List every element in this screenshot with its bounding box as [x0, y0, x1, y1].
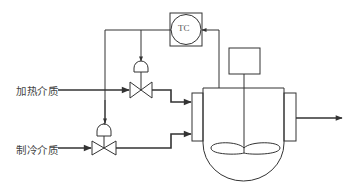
- heating-valve-actuator-icon: [134, 61, 148, 72]
- cooling-control-valve: [92, 124, 116, 155]
- cooling-pipe: [58, 134, 191, 148]
- agitator-motor: [229, 48, 260, 74]
- heating-control-valve: [130, 61, 152, 98]
- agitator-impeller: [211, 143, 280, 154]
- reactor-vessel: [192, 48, 296, 181]
- heating-medium-label: 加热介质: [16, 83, 58, 98]
- controller-label: TC: [178, 23, 190, 33]
- cooling-medium-label: 制冷介质: [16, 142, 58, 157]
- cooling-valve-actuator-icon: [97, 124, 111, 136]
- jacket-left: [192, 93, 203, 141]
- jacket-right: [284, 93, 296, 141]
- heating-pipe: [58, 90, 191, 102]
